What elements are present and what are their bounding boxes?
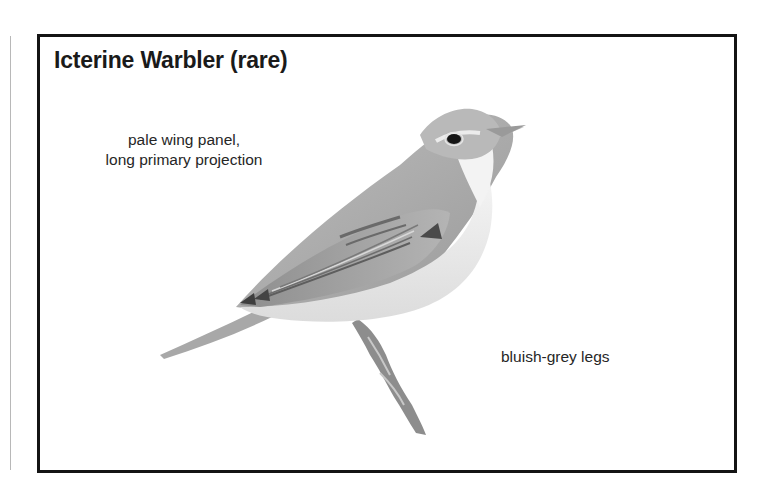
species-plate: Icterine Warbler (rare) pale wing panel,… (37, 34, 737, 473)
eye-shape (447, 134, 461, 144)
page-margin-line (10, 36, 11, 470)
warbler-illustration (40, 37, 734, 470)
leg-shape (352, 319, 426, 435)
